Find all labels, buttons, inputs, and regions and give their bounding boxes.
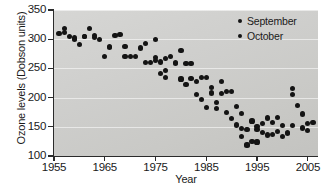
data-point (56, 31, 61, 36)
data-point (310, 120, 315, 125)
data-point (275, 115, 280, 120)
data-point (133, 54, 138, 59)
legend-marker-icon (238, 34, 242, 38)
legend-item: September (238, 13, 297, 28)
data-point (102, 54, 107, 59)
data-point (97, 37, 102, 42)
data-point (204, 75, 209, 80)
y-axis-tick-label: 350 (20, 4, 46, 16)
data-point (214, 100, 219, 105)
y-axis-tick-label: 300 (20, 33, 46, 45)
legend-item-label: October (247, 30, 283, 42)
y-axis-line (53, 9, 54, 157)
ozone-scatter-chart: Ozone levels (Dobson units) 100150200250… (0, 0, 328, 193)
data-point (239, 111, 244, 116)
data-point (138, 45, 143, 50)
data-point (260, 130, 265, 135)
data-point (260, 121, 265, 126)
data-point (163, 75, 168, 80)
legend-item: October (238, 28, 297, 43)
gridline (54, 68, 318, 69)
gridline (54, 127, 318, 128)
data-point (188, 61, 193, 66)
data-point (239, 134, 244, 139)
x-axis-tick-label: 1985 (186, 161, 226, 173)
y-axis-tick-label: 100 (20, 150, 46, 162)
data-point (163, 68, 168, 73)
y-axis-tick-label: 200 (20, 92, 46, 104)
data-point (270, 132, 275, 137)
legend-marker-icon (238, 19, 242, 23)
data-point (194, 92, 199, 97)
data-point (122, 44, 127, 49)
data-point (87, 26, 92, 31)
data-point (122, 54, 127, 59)
data-point (224, 110, 229, 115)
data-point (178, 76, 183, 81)
data-point (77, 42, 82, 47)
data-point (178, 48, 183, 53)
y-axis-tick (48, 126, 54, 127)
data-point (280, 134, 285, 139)
data-point (194, 79, 199, 84)
data-point (249, 118, 254, 123)
x-axis-tick-label: 1975 (136, 161, 176, 173)
data-point (295, 103, 300, 108)
gridline (54, 98, 318, 99)
x-axis-line (53, 156, 318, 157)
data-point (300, 111, 305, 116)
y-axis-tick (48, 68, 54, 69)
x-axis-label: Year (54, 173, 318, 185)
x-axis-tick-label: 2005 (288, 161, 328, 173)
data-point (168, 54, 173, 59)
x-axis-tick-label: 1965 (85, 161, 125, 173)
data-point (265, 115, 270, 120)
y-axis-tick-label: 150 (20, 121, 46, 133)
data-point (229, 116, 234, 121)
data-point (143, 41, 148, 46)
data-point (183, 82, 188, 87)
data-point (270, 120, 275, 125)
y-axis-tick-label: 250 (20, 62, 46, 74)
data-point (219, 91, 224, 96)
data-point (275, 129, 280, 134)
x-axis-tick-label: 1995 (237, 161, 277, 173)
y-axis-tick (48, 97, 54, 98)
chart-legend: September October (238, 13, 297, 43)
gridline (54, 10, 318, 11)
y-axis-tick (48, 9, 54, 10)
data-point (153, 37, 158, 42)
y-axis-label: Ozone levels (Dobson units) (13, 0, 29, 158)
y-axis-tick (48, 39, 54, 40)
data-point (158, 59, 163, 64)
data-point (244, 127, 249, 132)
data-point (173, 61, 178, 66)
legend-item-label: September (247, 15, 297, 27)
data-point (143, 60, 148, 65)
data-point (214, 106, 219, 111)
data-point (229, 89, 234, 94)
data-point (234, 104, 239, 109)
data-point (128, 54, 133, 59)
data-point (254, 139, 259, 144)
data-point (290, 86, 295, 91)
data-point (209, 90, 214, 95)
data-point (188, 76, 193, 81)
data-point (219, 79, 224, 84)
data-point (117, 32, 122, 37)
data-point (290, 92, 295, 97)
data-point (72, 35, 77, 40)
x-axis-tick-label: 1955 (34, 161, 74, 173)
data-point (305, 128, 310, 133)
data-point (204, 105, 209, 110)
data-point (199, 97, 204, 102)
data-point (62, 30, 67, 35)
